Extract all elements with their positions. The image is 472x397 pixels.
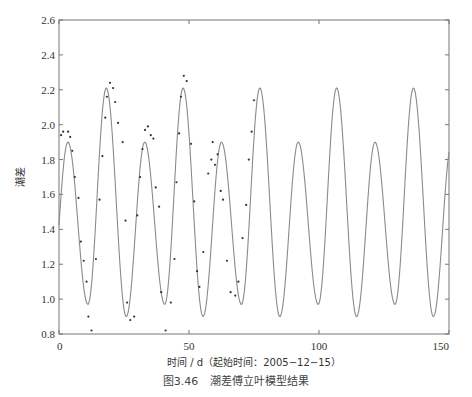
observed-point — [234, 295, 236, 297]
x-tick-label: 100 — [311, 340, 328, 352]
observed-point — [141, 148, 143, 150]
observed-points-group — [60, 75, 255, 332]
observed-point — [170, 302, 172, 304]
observed-point — [95, 258, 97, 260]
observed-point — [109, 82, 111, 84]
observed-point — [147, 125, 149, 127]
y-tick-label: 2.4 — [41, 49, 55, 61]
observed-point — [248, 158, 250, 160]
y-axis-title: 潮差 — [14, 167, 26, 187]
observed-point — [126, 302, 128, 304]
observed-point — [117, 122, 119, 124]
observed-point — [220, 190, 222, 192]
observed-point — [106, 96, 108, 98]
observed-point — [74, 176, 76, 178]
figure-number: 图3.46 — [163, 375, 199, 388]
observed-point — [212, 141, 214, 143]
observed-point — [214, 164, 216, 166]
observed-point — [69, 136, 71, 138]
x-axis-title: 时间 / d（起始时间：2005−12−15） — [167, 356, 341, 368]
observed-point — [186, 80, 188, 82]
observed-point — [124, 220, 126, 222]
observed-point — [222, 199, 224, 201]
observed-point — [230, 291, 232, 293]
observed-point — [133, 315, 135, 317]
observed-point — [144, 129, 146, 131]
observed-point — [71, 150, 73, 152]
observed-point — [101, 155, 103, 157]
observed-point — [241, 237, 243, 239]
y-tick-label: 1.0 — [41, 293, 55, 305]
observed-point — [245, 204, 247, 206]
observed-point — [198, 286, 200, 288]
observed-point — [180, 96, 182, 98]
observed-point — [104, 117, 106, 119]
observed-point — [253, 99, 255, 101]
observed-point — [98, 199, 100, 201]
figure-title: 潮差傅立叶模型结果 — [210, 375, 309, 388]
y-tick-label: 0.8 — [41, 328, 55, 340]
observed-point — [60, 134, 62, 136]
observed-point — [150, 134, 152, 136]
y-tick-label: 1.2 — [41, 258, 55, 270]
y-tick-label: 2.0 — [41, 119, 55, 131]
observed-point — [67, 131, 69, 133]
observed-point — [210, 158, 212, 160]
observed-point — [114, 101, 116, 103]
observed-point — [83, 260, 85, 262]
observed-point — [165, 329, 167, 331]
observed-point — [173, 258, 175, 260]
observed-point — [251, 131, 253, 133]
observed-point — [226, 260, 228, 262]
observed-point — [85, 281, 87, 283]
observed-point — [183, 75, 185, 77]
observed-point — [122, 141, 124, 143]
observed-point — [196, 270, 198, 272]
x-tick-label: 150 — [433, 340, 450, 352]
observed-point — [217, 153, 219, 155]
x-tick-label: 50 — [184, 340, 196, 352]
observed-point — [80, 240, 82, 242]
observed-point — [112, 87, 114, 89]
chart: 0.81.01.21.41.61.82.02.22.42.6 050100150… — [0, 0, 472, 370]
observed-point — [77, 197, 79, 199]
observed-point — [190, 143, 192, 145]
x-tick-label: 0 — [57, 340, 63, 352]
y-tick-label: 2.2 — [41, 84, 55, 96]
observed-point — [175, 181, 177, 183]
y-axis: 0.81.01.21.41.61.82.02.22.42.6 — [41, 14, 449, 340]
observed-point — [136, 214, 138, 216]
observed-point — [158, 206, 160, 208]
y-tick-label: 1.8 — [41, 154, 55, 166]
observed-point — [90, 329, 92, 331]
observed-point — [207, 172, 209, 174]
observed-point — [193, 200, 195, 202]
observed-point — [152, 138, 154, 140]
observed-point — [160, 291, 162, 293]
observed-point — [155, 186, 157, 188]
y-tick-label: 2.6 — [41, 14, 55, 26]
figure-caption: 图3.46潮差傅立叶模型结果 — [0, 372, 472, 388]
observed-point — [87, 315, 89, 317]
observed-point — [139, 176, 141, 178]
observed-point — [202, 251, 204, 253]
y-tick-label: 1.6 — [41, 188, 55, 200]
observed-point — [62, 131, 64, 133]
y-tick-label: 1.4 — [41, 223, 55, 235]
observed-point — [178, 132, 180, 134]
observed-point — [129, 319, 131, 321]
observed-point — [237, 281, 239, 283]
